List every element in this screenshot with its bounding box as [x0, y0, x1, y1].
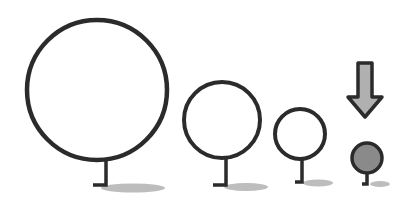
down-arrow-icon	[348, 63, 382, 117]
pin-shadow	[101, 184, 165, 193]
pin-xl	[27, 20, 167, 193]
pin-lg	[184, 82, 268, 191]
pin-head-circle	[275, 109, 325, 159]
pin-size-diagram	[0, 0, 408, 202]
pin-head-circle	[27, 20, 167, 160]
pin-md	[275, 109, 333, 187]
pin-shadow	[370, 181, 390, 187]
pin-head-circle	[352, 143, 382, 173]
pin-shadow	[303, 180, 333, 187]
pin-head-circle	[184, 82, 260, 158]
pin-shadow	[224, 183, 268, 191]
pin-sm	[352, 143, 390, 187]
